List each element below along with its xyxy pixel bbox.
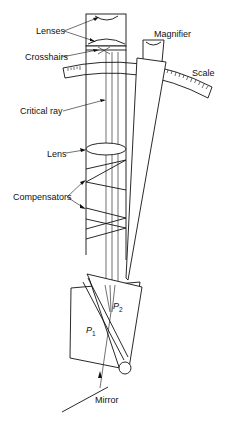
refractometer-diagram: Lenses Crosshairs Critical ray Lens Comp… [0,0,235,423]
label-scale: Scale [192,68,215,78]
label-lens: Lens [47,149,67,159]
label-magnifier: Magnifier [154,29,191,39]
lens [86,143,126,155]
label-compensators: Compensators [13,192,72,202]
prism-assembly [70,274,142,388]
label-lenses: Lenses [36,26,66,36]
svg-text:1: 1 [92,330,96,337]
label-mirror: Mirror [95,395,119,405]
label-crosshairs: Crosshairs [25,52,69,62]
label-critical-ray: Critical ray [20,106,63,116]
svg-text:2: 2 [119,306,123,313]
magnifier-tube [126,40,166,280]
mirror [62,371,108,412]
